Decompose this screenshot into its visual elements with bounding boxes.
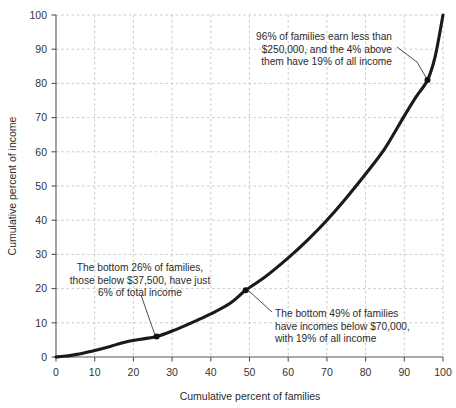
top-4-marker [425,77,431,83]
y-axis-title: Cumulative percent of income [6,116,18,255]
y-tick-label: 10 [35,317,47,329]
annotation-text-line: with 19% of all income [274,333,377,344]
y-tick-label: 60 [35,146,47,158]
y-tick-label: 0 [41,351,47,363]
x-tick-label: 10 [89,366,101,378]
annotation-text-line: The bottom 49% of families [275,308,398,319]
y-tick-label: 90 [35,43,47,55]
y-tick-label: 100 [29,9,47,21]
y-tick-label: 50 [35,180,47,192]
annotation-text-line: 96% of families earn less than [256,31,392,42]
y-tick-label: 40 [35,214,47,226]
x-tick-label: 30 [166,366,178,378]
bottom-26-marker [154,333,160,339]
x-tick-label: 20 [128,366,140,378]
annotation-text-line: The bottom 26% of families, [77,262,203,273]
annotation-text-line: 6% of total income [98,287,182,298]
x-tick-label: 70 [321,366,333,378]
y-tick-label: 20 [35,282,47,294]
y-tick-label: 30 [35,248,47,260]
x-tick-label: 100 [434,366,452,378]
annotation-text-line: them have 19% of all income [261,56,392,67]
annotation-text-line: those below $37,500, have just [70,275,211,286]
x-tick-label: 80 [360,366,372,378]
y-tick-label: 70 [35,111,47,123]
x-tick-label: 60 [282,366,294,378]
x-tick-label: 40 [205,366,217,378]
y-tick-label: 80 [35,77,47,89]
bottom-49-marker [243,287,249,293]
annotation-text-line: have incomes below $70,000, [275,321,410,332]
chart-canvas: 0102030405060708090100010203040506070809… [0,0,456,408]
lorenz-chart: 0102030405060708090100010203040506070809… [0,0,456,408]
x-tick-label: 90 [398,366,410,378]
x-tick-label: 50 [244,366,256,378]
annotation-top-right: 96% of families earn less than$250,000, … [256,31,392,67]
x-axis-title: Cumulative percent of families [180,390,321,402]
x-tick-label: 0 [53,366,59,378]
annotation-text-line: $250,000, and the 4% above [262,44,393,55]
